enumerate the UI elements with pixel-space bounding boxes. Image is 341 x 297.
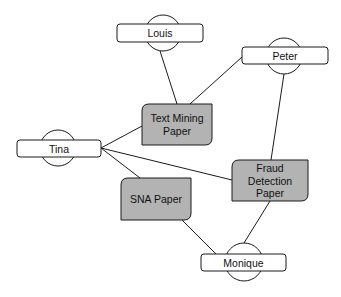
paper-node-sna[interactable]: SNA Paper: [121, 178, 191, 220]
paper-node-fraud-detection[interactable]: FraudDetectionPaper: [232, 160, 308, 201]
edges-layer: [101, 51, 284, 254]
person-label: Louis: [147, 27, 172, 39]
papers-layer: Text MiningPaperSNA PaperFraudDetectionP…: [121, 104, 308, 220]
edge-sna-monique: [182, 220, 216, 254]
person-node-tina[interactable]: Tina: [17, 130, 101, 166]
edge-peter-fraud-detection: [271, 74, 284, 160]
paper-label-line: Detection: [248, 175, 293, 187]
person-node-peter[interactable]: Peter: [242, 38, 328, 74]
edge-tina-fraud-detection: [101, 148, 232, 180]
edge-louis-text-mining: [160, 51, 177, 104]
paper-label-line: Paper: [163, 125, 192, 137]
edge-peter-text-mining: [190, 57, 242, 104]
person-label: Tina: [49, 143, 69, 155]
person-label: Peter: [272, 50, 298, 62]
paper-label-line: Paper: [256, 187, 285, 199]
edge-fraud-detection-monique: [244, 201, 270, 243]
network-diagram: LouisPeterTinaMonique Text MiningPaperSN…: [0, 0, 341, 297]
person-node-monique[interactable]: Monique: [201, 243, 286, 281]
paper-node-text-mining[interactable]: Text MiningPaper: [142, 104, 212, 145]
paper-label-line: Text Mining: [150, 112, 203, 124]
paper-label-line: SNA Paper: [130, 193, 182, 205]
person-node-louis[interactable]: Louis: [117, 15, 203, 51]
person-label: Monique: [223, 257, 263, 269]
edge-tina-text-mining: [101, 126, 142, 148]
paper-label-line: Fraud: [256, 162, 284, 174]
people-layer: LouisPeterTinaMonique: [17, 15, 328, 281]
